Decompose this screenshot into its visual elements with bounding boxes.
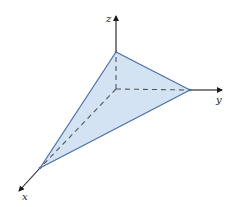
coordinate-diagram: z y x	[0, 0, 238, 207]
x-intercept-vertex	[39, 167, 42, 170]
y-axis-label: y	[215, 94, 222, 105]
plane-triangle	[40, 52, 190, 168]
x-axis	[19, 168, 40, 191]
z-axis-label: z	[105, 13, 112, 24]
x-axis-label: x	[22, 191, 28, 202]
y-intercept-vertex	[189, 89, 192, 92]
z-intercept-vertex	[115, 51, 118, 54]
